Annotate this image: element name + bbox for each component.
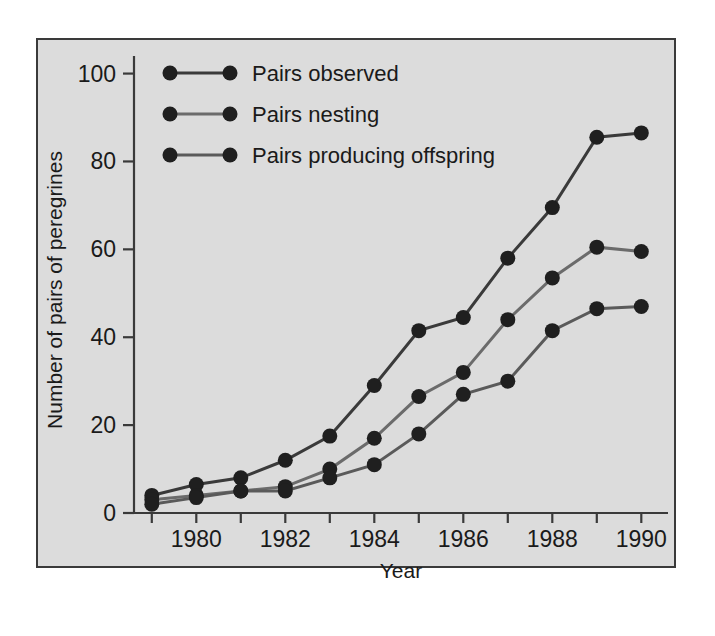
- data-point: [589, 240, 604, 255]
- y-axis-tick-labels: 020406080100: [78, 61, 116, 526]
- x-tick-label: 1982: [260, 526, 311, 552]
- data-point: [500, 374, 515, 389]
- x-tick-label: 1988: [527, 526, 578, 552]
- y-tick-label: 20: [90, 412, 116, 438]
- data-point: [545, 200, 560, 215]
- x-axis-ticks: [152, 513, 642, 523]
- series-line-0: [152, 133, 642, 496]
- x-tick-label: 1984: [349, 526, 400, 552]
- legend-marker-start: [163, 148, 178, 163]
- data-point: [367, 431, 382, 446]
- peregrine-population-line-chart: 020406080100 198019821984198619881990 Ye…: [0, 0, 715, 636]
- legend-label-2: Pairs producing offspring: [252, 143, 495, 168]
- legend-marker-start: [163, 107, 178, 122]
- legend-marker-start: [163, 66, 178, 81]
- legend-marker-end: [223, 107, 238, 122]
- data-point: [411, 323, 426, 338]
- data-point: [322, 470, 337, 485]
- data-point: [411, 426, 426, 441]
- legend-marker-end: [223, 148, 238, 163]
- data-point: [233, 470, 248, 485]
- y-tick-label: 60: [90, 236, 116, 262]
- x-tick-label: 1986: [438, 526, 489, 552]
- series-polylines: [152, 133, 642, 504]
- data-point: [500, 312, 515, 327]
- series-markers: [144, 125, 649, 511]
- data-point: [189, 490, 204, 505]
- data-point: [456, 365, 471, 380]
- data-point: [367, 378, 382, 393]
- data-point: [233, 484, 248, 499]
- series-line-2: [152, 306, 642, 504]
- y-tick-label: 0: [103, 500, 116, 526]
- legend-label-1: Pairs nesting: [252, 102, 379, 127]
- data-point: [545, 323, 560, 338]
- x-axis-title: Year: [380, 559, 422, 582]
- y-axis-title: Number of pairs of peregrines: [43, 151, 66, 429]
- data-point: [634, 125, 649, 140]
- data-point: [634, 299, 649, 314]
- data-point: [367, 457, 382, 472]
- y-tick-label: 100: [78, 61, 116, 87]
- legend-label-0: Pairs observed: [252, 61, 399, 86]
- y-tick-label: 80: [90, 148, 116, 174]
- data-point: [589, 301, 604, 316]
- data-point: [500, 251, 515, 266]
- y-axis-ticks: [123, 74, 134, 513]
- data-point: [456, 310, 471, 325]
- data-point: [545, 270, 560, 285]
- x-axis-tick-labels: 198019821984198619881990: [171, 526, 667, 552]
- y-tick-label: 40: [90, 324, 116, 350]
- legend-marker-end: [223, 66, 238, 81]
- data-point: [589, 130, 604, 145]
- data-point: [456, 387, 471, 402]
- data-point: [278, 453, 293, 468]
- series-line-1: [152, 247, 642, 500]
- data-point: [322, 429, 337, 444]
- x-tick-label: 1990: [616, 526, 667, 552]
- data-point: [278, 484, 293, 499]
- legend: Pairs observedPairs nestingPairs produci…: [163, 61, 495, 168]
- data-point: [411, 389, 426, 404]
- data-point: [634, 244, 649, 259]
- x-tick-label: 1980: [171, 526, 222, 552]
- data-point: [144, 497, 159, 512]
